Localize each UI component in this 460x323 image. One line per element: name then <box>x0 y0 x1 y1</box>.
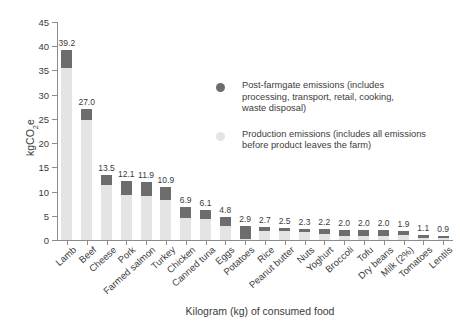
x-tick <box>107 240 108 245</box>
bar-segment-production <box>418 238 429 240</box>
bar-dry-beans: 2.0 <box>378 230 389 240</box>
production-dot-icon <box>216 132 225 141</box>
y-tick <box>52 95 57 96</box>
bar-value-label: 39.2 <box>59 38 76 48</box>
bar-value-label: 1.9 <box>398 219 410 229</box>
bar-lamb: 39.2 <box>61 50 72 240</box>
y-tick-label: 5 <box>44 210 49 221</box>
bar-value-label: 2.0 <box>338 218 350 228</box>
bar-chicken: 6.9 <box>180 207 191 240</box>
y-tick-label: 30 <box>38 89 49 100</box>
x-tick <box>324 240 325 245</box>
emissions-bar-chart: kgCO2e Kilogram (kg) of consumed food 05… <box>0 0 460 323</box>
x-tick <box>146 240 147 245</box>
bar-beef: 27.0 <box>81 109 92 240</box>
bar-segment-production <box>141 196 152 240</box>
bar-segment-production <box>279 231 290 240</box>
bar-value-label: 2.5 <box>279 216 291 226</box>
bar-segment-production <box>339 236 350 240</box>
bar-nuts: 2.3 <box>299 229 310 240</box>
bar-segment-production <box>240 239 251 240</box>
bar-turkey: 10.9 <box>160 187 171 240</box>
bar-value-label: 2.9 <box>239 214 251 224</box>
legend-line: before product leaves the farm) <box>242 140 446 152</box>
x-tick <box>285 240 286 245</box>
x-tick <box>364 240 365 245</box>
bar-segment-post-farmgate <box>81 109 92 120</box>
bar-potatoes: 2.9 <box>240 226 251 240</box>
legend-line: processing, transport, retail, cooking, <box>242 92 446 104</box>
y-tick <box>52 216 57 217</box>
bar-segment-post-farmgate <box>141 182 152 196</box>
bar-lentils: 0.9 <box>438 236 449 240</box>
legend-item-production: Production emissions (includes all emiss… <box>216 129 446 152</box>
bar-segment-post-farmgate <box>319 229 330 233</box>
bar-segment-production <box>319 234 330 240</box>
bar-segment-post-farmgate <box>398 231 409 235</box>
bar-segment-post-farmgate <box>378 230 389 235</box>
bar-segment-production <box>121 195 132 240</box>
y-axis-title-text: kgCO2e <box>24 119 36 156</box>
legend-item-post-farmgate: Post-farmgate emissions (includes proces… <box>216 80 446 115</box>
bar-segment-post-farmgate <box>279 228 290 231</box>
bar-value-label: 13.5 <box>98 163 115 173</box>
bar-pork: 12.1 <box>121 181 132 240</box>
bar-segment-post-farmgate <box>418 235 429 238</box>
y-tick <box>52 167 57 168</box>
x-tick <box>344 240 345 245</box>
category-label: Lamb <box>53 244 78 268</box>
bar-segment-production <box>101 185 112 240</box>
y-axis-title: kgCO2e <box>24 98 39 178</box>
bar-farmed-salmon: 11.9 <box>141 182 152 240</box>
chart-legend: Post-farmgate emissions (includes proces… <box>216 80 446 166</box>
bar-segment-production <box>358 236 369 240</box>
bar-value-label: 11.9 <box>138 170 154 180</box>
x-tick <box>265 240 266 245</box>
x-tick <box>206 240 207 245</box>
bar-segment-post-farmgate <box>121 181 132 195</box>
bar-segment-production <box>398 235 409 240</box>
bar-segment-production <box>299 232 310 240</box>
bar-canned-tuna: 6.1 <box>200 210 211 240</box>
bar-segment-post-farmgate <box>259 227 270 231</box>
bar-broccoli: 2.0 <box>339 230 350 240</box>
bar-segment-production <box>81 120 92 240</box>
bar-segment-production <box>160 200 171 240</box>
y-tick <box>52 192 57 193</box>
bar-value-label: 12.1 <box>118 169 135 179</box>
y-tick <box>52 240 57 241</box>
y-tick <box>52 46 57 47</box>
y-tick <box>52 119 57 120</box>
bar-value-label: 1.1 <box>417 223 429 233</box>
bar-value-label: 2.7 <box>259 215 271 225</box>
x-tick <box>404 240 405 245</box>
x-tick <box>384 240 385 245</box>
bar-segment-production <box>259 231 270 240</box>
bar-segment-post-farmgate <box>438 236 449 238</box>
y-tick-label: 40 <box>38 41 49 52</box>
bar-tomatoes: 1.1 <box>418 235 429 240</box>
x-tick <box>186 240 187 245</box>
x-tick <box>87 240 88 245</box>
bar-value-label: 10.9 <box>158 175 175 185</box>
y-tick-label: 10 <box>38 186 49 197</box>
bar-segment-post-farmgate <box>61 50 72 68</box>
bar-value-label: 0.9 <box>437 224 449 234</box>
y-tick-label: 35 <box>38 65 49 76</box>
y-tick-label: 45 <box>38 17 49 28</box>
bar-segment-post-farmgate <box>101 175 112 186</box>
post-farmgate-dot-icon <box>216 83 225 92</box>
y-tick-label: 15 <box>38 162 49 173</box>
bar-segment-production <box>378 236 389 240</box>
bar-segment-post-farmgate <box>358 230 369 235</box>
y-tick <box>52 22 57 23</box>
bar-segment-post-farmgate <box>220 217 231 226</box>
bar-value-label: 2.0 <box>358 218 370 228</box>
bar-value-label: 27.0 <box>78 97 95 107</box>
x-tick <box>166 240 167 245</box>
bar-segment-post-farmgate <box>339 230 350 235</box>
bar-rice: 2.7 <box>259 227 270 240</box>
bar-value-label: 6.1 <box>200 198 212 208</box>
x-axis-line <box>57 240 453 241</box>
x-tick <box>423 240 424 245</box>
